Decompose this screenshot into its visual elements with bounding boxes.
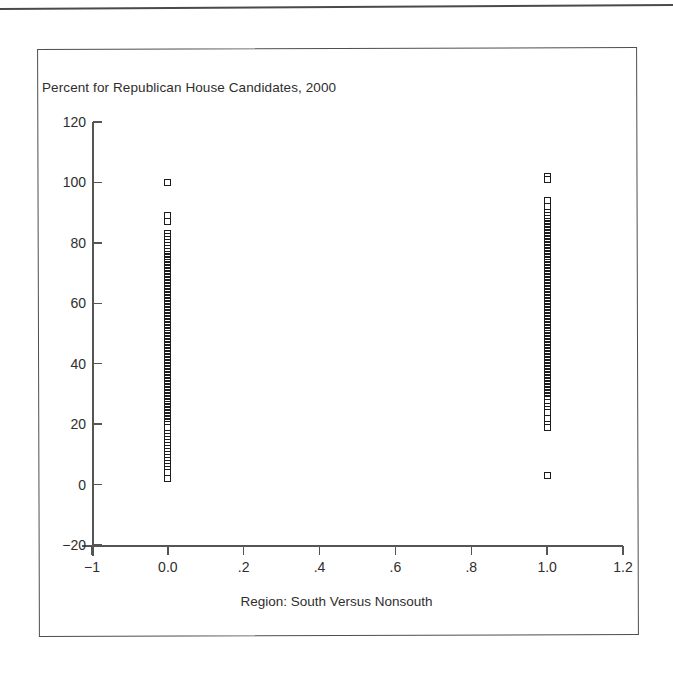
y-tick-mark [93, 544, 102, 546]
x-tick-label: .6 [365, 560, 425, 578]
y-tick-label-text: −20 [42, 538, 86, 552]
x-tick-label-text: .8 [441, 560, 501, 574]
x-tick-label: 1.2 [593, 560, 653, 578]
y-tick-mark [93, 363, 102, 365]
y-tick-mark [93, 121, 102, 123]
x-axis-title: Region: South Versus Nonsouth [0, 594, 673, 609]
x-tick-mark [167, 546, 169, 555]
x-tick-label: 0.0 [138, 560, 198, 578]
data-point [544, 176, 551, 183]
plot-area: −20020406080100120 −10.0.2.4.6.81.01.2 [0, 0, 673, 683]
y-tick-label-text: 100 [42, 175, 86, 189]
x-tick-label: .2 [214, 560, 274, 578]
x-tick-mark [622, 546, 624, 555]
x-tick-label: −1 [62, 560, 122, 578]
x-tick-label-text: .4 [290, 560, 350, 574]
x-tick-label: .8 [441, 560, 501, 578]
y-tick-label-text: 40 [42, 357, 86, 371]
data-point [164, 218, 171, 225]
y-tick-label-text: 80 [42, 236, 86, 250]
y-tick-mark [93, 303, 102, 305]
y-tick-label: −20 [36, 538, 86, 552]
y-tick-label: 20 [36, 417, 86, 431]
y-tick-label-text: 60 [42, 296, 86, 310]
y-tick-mark [93, 484, 102, 486]
x-axis-line [82, 545, 623, 547]
x-tick-label: .4 [290, 560, 350, 578]
x-tick-label-text: .2 [214, 560, 274, 574]
y-axis-line [92, 122, 94, 556]
x-tick-mark [243, 546, 245, 555]
x-tick-mark [91, 546, 93, 555]
y-tick-label: 40 [36, 357, 86, 371]
y-tick-label-text: 0 [42, 478, 86, 492]
y-tick-label: 100 [36, 175, 86, 189]
y-tick-label: 120 [36, 115, 86, 129]
x-tick-label-text: 0.0 [138, 560, 198, 574]
y-tick-mark [93, 182, 102, 184]
x-tick-label-text: 1.0 [517, 560, 577, 574]
y-tick-label: 0 [36, 478, 86, 492]
y-tick-mark [93, 423, 102, 425]
data-point [164, 179, 171, 186]
x-tick-label-text: −1 [62, 560, 122, 574]
y-tick-label-text: 20 [42, 417, 86, 431]
data-point [164, 475, 171, 482]
x-tick-label: 1.0 [517, 560, 577, 578]
data-point [544, 424, 551, 431]
y-tick-label: 80 [36, 236, 86, 250]
x-tick-mark [471, 546, 473, 555]
y-tick-label-text: 120 [42, 115, 86, 129]
y-tick-mark [93, 242, 102, 244]
y-tick-label: 60 [36, 296, 86, 310]
x-tick-mark [395, 546, 397, 555]
x-tick-mark [546, 546, 548, 555]
x-tick-label-text: 1.2 [593, 560, 653, 574]
x-tick-label-text: .6 [365, 560, 425, 574]
data-point [544, 472, 551, 479]
x-tick-mark [319, 546, 321, 555]
